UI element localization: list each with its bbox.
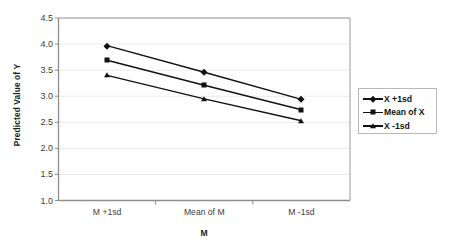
x-axis-tick-label: M +1sd	[93, 207, 121, 217]
x-axis-tick-label: Mean of M	[184, 207, 225, 217]
diamond-marker-icon	[363, 93, 383, 105]
x-axis-title: M	[58, 228, 350, 238]
line-chart: Predicted Value of Y 1.01.52.02.53.03.54…	[0, 0, 455, 252]
legend-item-label: X +1sd	[384, 94, 412, 104]
triangle-marker-icon	[298, 118, 304, 123]
triangle-marker-icon	[201, 96, 207, 101]
square-marker-icon	[105, 58, 110, 63]
legend-item: X -1sd	[363, 119, 436, 133]
legend-item-label: X -1sd	[384, 121, 410, 131]
square-marker-icon	[299, 107, 304, 112]
legend-item-label: Mean of X	[384, 107, 425, 117]
triangle-marker-icon	[363, 120, 383, 132]
square-marker-icon	[363, 106, 383, 118]
x-axis-tick-label: M -1sd	[288, 207, 314, 217]
triangle-marker-icon	[104, 73, 110, 78]
legend-item: X +1sd	[363, 92, 436, 106]
legend-item: Mean of X	[363, 106, 436, 120]
square-marker-icon	[202, 83, 207, 88]
chart-legend: X +1sd Mean of X X -1sd	[358, 88, 437, 134]
